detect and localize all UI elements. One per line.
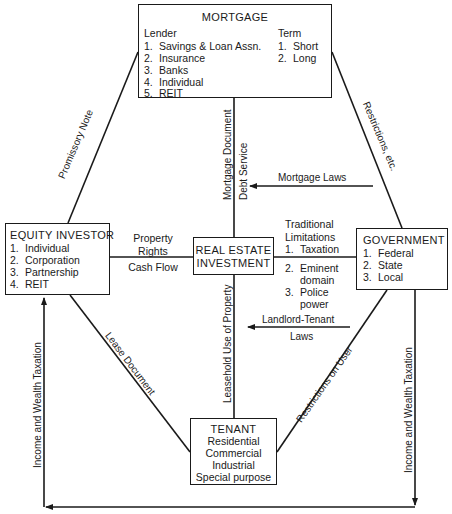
leasehold-use-label: Leasehold Use of Property — [222, 285, 233, 403]
mortgage-box: MORTGAGE Lender 1.Savings & Loan Assn. 2… — [138, 4, 332, 98]
government-title: GOVERNMENT — [363, 234, 445, 247]
landlord-tenant-label: Landlord-Tenant — [262, 314, 334, 327]
mortgage-document-label: Mortgage Document — [222, 109, 233, 200]
real-estate-line1: REAL ESTATE — [194, 244, 273, 257]
income-wealth-right-label: Income and Wealth Taxation — [403, 347, 414, 473]
equity-investor-item: 4.REIT — [10, 278, 49, 291]
tenant-item: Industrial — [191, 459, 276, 472]
government-box: GOVERNMENT 1.Federal 2.State 3.Local — [356, 228, 448, 290]
tenant-box: TENANT Residential Commercial Industrial… — [190, 418, 277, 485]
cash-flow-label: Cash Flow — [122, 261, 184, 274]
lease-document-line — [70, 295, 190, 452]
government-item: 2.State — [363, 259, 403, 272]
government-item: 3.Local — [363, 271, 403, 284]
equity-investor-item: 3.Partnership — [10, 266, 79, 279]
term-item: 2.Long — [278, 52, 316, 65]
lender-item: 3.Banks — [144, 64, 188, 77]
landlord-tenant-laws-label: Laws — [290, 331, 313, 344]
tenant-title: TENANT — [191, 423, 276, 436]
real-estate-line2: INVESTMENT — [194, 257, 273, 270]
lender-item: 5.REIT — [144, 88, 183, 98]
lender-item: 1.Savings & Loan Assn. — [144, 40, 261, 53]
debt-service-label: Debt Service — [238, 143, 249, 200]
equity-investor-item: 2.Corporation — [10, 254, 80, 267]
lender-heading: Lender — [144, 27, 177, 40]
equity-investor-box: EQUITY INVESTOR 1.Individual 2.Corporati… — [5, 223, 110, 295]
tenant-item: Commercial — [191, 447, 276, 460]
mortgage-laws-label: Mortgage Laws — [278, 172, 346, 185]
equity-investor-item: 1.Individual — [10, 242, 69, 255]
limitation-item-cont: power — [300, 298, 329, 311]
property-rights-label: Property Rights — [122, 232, 184, 257]
term-item: 1.Short — [278, 40, 318, 53]
limitation-item: 3.Police — [285, 286, 329, 299]
equity-investor-title: EQUITY INVESTOR — [10, 229, 114, 242]
real-estate-investment-box: REAL ESTATE INVESTMENT — [193, 237, 274, 275]
government-item: 1.Federal — [363, 247, 414, 260]
term-heading: Term — [278, 27, 301, 40]
tenant-item: Special purpose — [191, 471, 276, 484]
tenant-item: Residential — [191, 435, 276, 448]
limitation-item-cont: domain — [300, 274, 334, 287]
limitation-item: 1.Taxation — [285, 243, 339, 256]
traditional-limitations-label: Traditional Limitations — [284, 218, 335, 243]
restrictions-line — [332, 52, 402, 228]
income-wealth-left-label: Income and Wealth Taxation — [32, 342, 43, 468]
mortgage-title: MORTGAGE — [139, 11, 331, 24]
lender-item: 2.Insurance — [144, 52, 205, 65]
limitation-item: 2.Eminent — [285, 262, 339, 275]
